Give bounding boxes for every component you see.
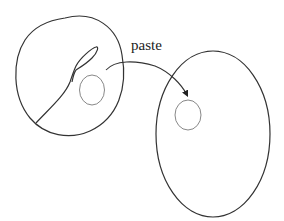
paste-label: paste bbox=[131, 37, 162, 53]
paste-arrow bbox=[106, 62, 187, 95]
left-region-outline bbox=[16, 16, 124, 136]
right-region-outline bbox=[156, 51, 270, 217]
curve-with-loop bbox=[36, 47, 98, 123]
right-small-circle bbox=[175, 100, 201, 130]
left-small-circle bbox=[80, 75, 105, 105]
paste-diagram: paste bbox=[0, 0, 284, 221]
